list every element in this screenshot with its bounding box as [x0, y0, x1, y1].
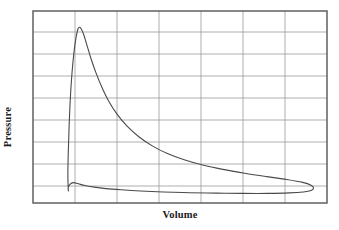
figure-background	[0, 0, 339, 230]
plot-canvas	[0, 0, 339, 230]
y-axis-title: Pressure	[0, 0, 14, 230]
y-axis-title-text: Pressure	[2, 107, 13, 147]
pressure-volume-figure: Pressure Volume	[0, 0, 339, 230]
x-axis-title: Volume	[33, 209, 327, 220]
